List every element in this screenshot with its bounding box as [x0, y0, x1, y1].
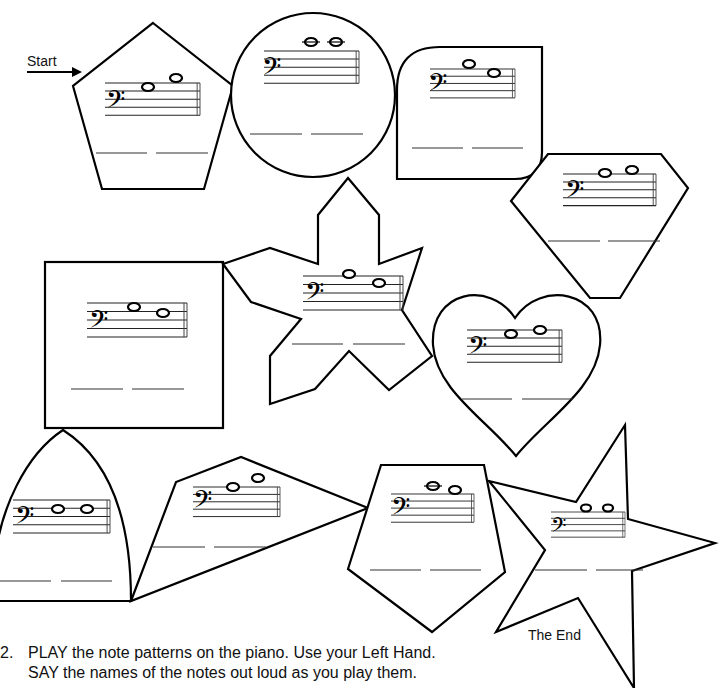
bass-clef-icon: 𝄢 [89, 305, 108, 340]
note-1 [128, 303, 140, 311]
start-marker: Start [27, 53, 82, 77]
bass-clef-icon: 𝄢 [15, 501, 34, 536]
note-2 [534, 326, 546, 334]
instruction-line-2: SAY the names of the notes out loud as y… [28, 663, 417, 683]
note-1 [343, 270, 355, 278]
note-1 [505, 330, 517, 338]
note-2 [81, 505, 93, 513]
bass-clef-icon: 𝄢 [428, 68, 447, 103]
start-label: Start [27, 53, 57, 69]
note-1 [142, 83, 154, 91]
bass-clef-icon: 𝄢 [565, 175, 584, 210]
shape-3-rounded-square: 𝄢 [397, 47, 542, 179]
note-2 [603, 505, 613, 512]
shape-4-diamond-gem: 𝄢 [511, 154, 688, 298]
note-1 [52, 505, 64, 513]
note-1 [599, 169, 611, 177]
note-2 [252, 474, 264, 482]
bass-clef-icon: 𝄢 [106, 85, 125, 120]
shape-7-heart: 𝄢 [433, 295, 600, 456]
note-2 [170, 74, 182, 82]
note-2 [157, 309, 169, 317]
shape-1-pentagon: 𝄢 [73, 23, 233, 189]
bass-clef-icon: 𝄢 [468, 331, 487, 366]
instruction-line-1: PLAY the note patterns on the piano. Use… [28, 643, 436, 663]
shape-9-kite: 𝄢 [131, 457, 368, 601]
bass-clef-icon: 𝄢 [391, 492, 410, 527]
end-label: The End [528, 627, 581, 643]
shape-5-square: 𝄢 [45, 262, 223, 428]
bass-clef-icon: 𝄢 [193, 485, 212, 520]
note-2 [488, 69, 500, 77]
instruction-number: 2. [0, 643, 13, 663]
note-2 [449, 486, 461, 494]
bass-clef-icon: 𝄢 [305, 277, 324, 312]
note-1 [463, 60, 475, 68]
note-path-worksheet: Start 𝄢 𝄢 𝄢 [0, 0, 719, 688]
note-2 [373, 279, 385, 287]
bass-clef-icon: 𝄢 [262, 52, 281, 87]
shape-8-arch: 𝄢 [0, 430, 131, 601]
note-2 [626, 166, 638, 174]
bass-clef-icon: 𝄢 [551, 514, 566, 542]
shape-11-star: 𝄢 The End [489, 425, 715, 688]
shape-6-star-flower: 𝄢 [223, 178, 432, 404]
shape-10-pentagon: 𝄢 [348, 465, 505, 632]
note-1 [227, 483, 239, 491]
note-1 [581, 505, 591, 512]
shape-2-circle: 𝄢 [231, 13, 395, 177]
